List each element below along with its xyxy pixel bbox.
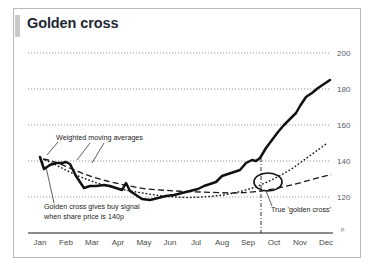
x-tick-oct: Oct	[268, 238, 281, 247]
x-tick-sep: Sep	[241, 238, 256, 247]
series-short-term-moving-average	[45, 144, 326, 198]
y-tick-160: 160	[337, 121, 351, 130]
annotation-buy-signal-line2: when share price is 140p	[43, 212, 124, 221]
x-tick-aug: Aug	[215, 238, 229, 247]
x-tick-jul: Jul	[191, 238, 201, 247]
y-tick-180: 180	[337, 85, 351, 94]
x-tick-mar: Mar	[85, 238, 99, 247]
y-tick-140: 140	[337, 157, 351, 166]
annotation-weighted-moving-averages-leaders	[47, 142, 104, 163]
annotation-true-golden-cross: True 'golden cross'	[271, 205, 332, 214]
x-tick-feb: Feb	[59, 238, 73, 247]
y-tick-120: 120	[337, 193, 351, 202]
y-tick-200: 200	[337, 49, 351, 58]
x-tick-jun: Jun	[164, 238, 177, 247]
y-axis-tick-labels: 200 180 160 140 120	[337, 49, 351, 202]
annotation-buy-signal-leader	[46, 167, 54, 203]
chart-figure: Golden cross 200 180 160 140 120 Jan Feb…	[0, 0, 372, 273]
annotation-true-golden-cross-leader	[266, 191, 272, 206]
annotation-buy-signal-line1: Golden cross gives buy signal	[44, 202, 140, 211]
unit-marker-p: p	[341, 226, 345, 232]
x-tick-may: May	[136, 238, 151, 247]
annotation-weighted-moving-averages: Weighted moving averages	[56, 133, 143, 142]
x-tick-nov: Nov	[293, 238, 307, 247]
crossover-ellipse-marker	[254, 173, 282, 191]
x-tick-jan: Jan	[34, 238, 47, 247]
x-axis-tick-labels: Jan Feb Mar Apr May Jun Jul Aug Sep Oct …	[34, 238, 334, 247]
x-tick-dec: Dec	[319, 238, 333, 247]
chart-plot-area: 200 180 160 140 120 Jan Feb Mar Apr May …	[0, 0, 372, 273]
x-tick-apr: Apr	[112, 238, 125, 247]
